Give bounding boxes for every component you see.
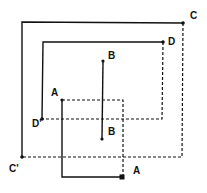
point-c [181, 21, 185, 25]
label-a-top: A [51, 87, 58, 98]
point-b-bottom [100, 137, 103, 140]
point-c-prime [20, 155, 24, 159]
point-b-top [101, 59, 104, 62]
label-c-prime: C' [9, 163, 19, 174]
square-a [60, 98, 124, 179]
label-a-bottom: A [133, 165, 140, 176]
diagram-canvas: C D B A D' B C' A [0, 0, 207, 193]
point-d [161, 40, 165, 44]
square-a-solid-edges [62, 100, 122, 177]
label-d-prime: D' [32, 118, 42, 129]
label-c: C [190, 10, 197, 21]
label-b-top: B [108, 50, 115, 61]
point-a-top [60, 98, 63, 101]
label-d: D [168, 36, 175, 47]
square-a-dashed-edges [62, 100, 123, 177]
label-b-bottom: B [108, 126, 115, 137]
point-a-bottom [120, 175, 125, 180]
